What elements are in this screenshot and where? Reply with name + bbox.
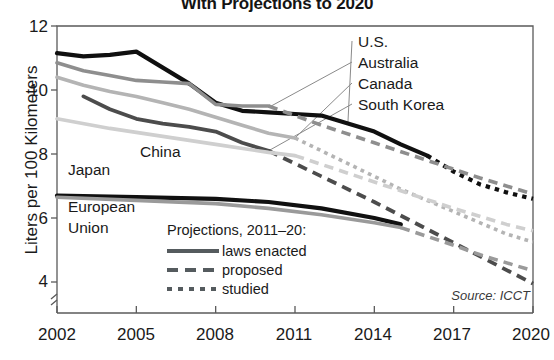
legend-item-proposed: proposed — [167, 260, 307, 279]
legend-item-studied: studied — [167, 279, 307, 298]
legend: Projections, 2011–20: laws enacted propo… — [167, 222, 307, 298]
legend-swatch-dotted-icon — [167, 282, 219, 296]
legend-title: Projections, 2011–20: — [167, 222, 307, 238]
series-label-japan: Japan — [68, 161, 110, 179]
series-label-canada: Canada — [358, 75, 412, 93]
series-label-us: U.S. — [358, 33, 388, 51]
legend-swatch-solid-icon — [167, 244, 219, 258]
plot-area — [0, 0, 554, 360]
chart-container: With Projections to 2020 Liters per 100 … — [0, 0, 554, 360]
series-label-south-korea: South Korea — [358, 96, 444, 114]
legend-label: laws enacted — [222, 243, 307, 259]
series-label-european-union-line2: Union — [68, 219, 109, 237]
series-label-china: China — [140, 143, 181, 161]
series-label-european-union-line1: European — [68, 198, 135, 216]
legend-item-laws-enacted: laws enacted — [167, 241, 307, 260]
series-label-australia: Australia — [358, 54, 418, 72]
legend-label: proposed — [222, 262, 282, 278]
legend-label: studied — [222, 281, 269, 297]
legend-swatch-dashed-icon — [167, 263, 219, 277]
source-note: Source: ICCT — [451, 288, 530, 303]
